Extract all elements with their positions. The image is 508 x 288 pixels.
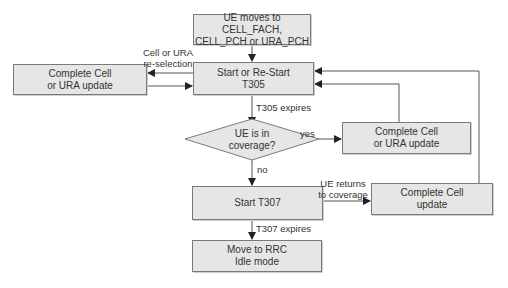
left-update-box: Complete Cell or URA update (13, 64, 147, 95)
decision-label: UE is in coverage? (212, 128, 292, 152)
entry-box: UE moves to CELL_FACH, CELL_PCH or URA_P… (193, 14, 311, 45)
cell-update-box: Complete Cell update (371, 183, 493, 215)
returns-label: UE returns to coverage (313, 178, 373, 200)
idle-box: Move to RRC Idle mode (192, 240, 322, 272)
t305-expires-label: T305 expires (256, 102, 311, 113)
t307-expires-label: T307 expires (256, 223, 311, 234)
right-update-box: Complete Cell or URA update (342, 122, 471, 154)
no-label: no (257, 164, 268, 175)
reselection-label: Cell or URA re-selection (138, 47, 198, 69)
start-t307-box: Start T307 (192, 186, 323, 220)
yes-label: yes (300, 128, 315, 139)
start-t305-box: Start or Re-Start T305 (193, 62, 314, 95)
